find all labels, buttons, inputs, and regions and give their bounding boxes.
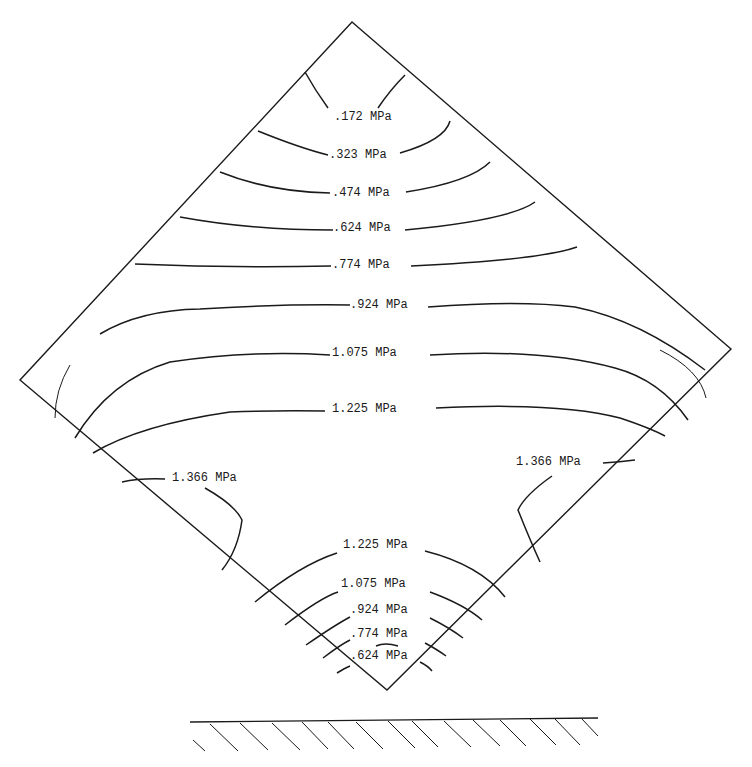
contour-label: .774 MPa <box>350 627 408 641</box>
ground-support <box>190 718 598 751</box>
contour-label: .172 MPa <box>334 110 392 124</box>
contour-label: .624 MPa <box>333 221 391 235</box>
stress-contour-diagram: .172 MPa .323 MPa .474 MPa .624 MPa .774… <box>0 0 752 767</box>
contour-label: 1.225 MPa <box>343 538 408 552</box>
contour-label: .474 MPa <box>332 186 390 200</box>
contour-label: .924 MPa <box>350 298 408 312</box>
contour-label: 1.225 MPa <box>332 402 397 416</box>
contour-label-left: 1.366 MPa <box>172 471 237 485</box>
contour-label: .924 MPa <box>350 603 408 617</box>
lower-contours: 1.225 MPa 1.075 MPa .924 MPa .774 MPa .6… <box>255 538 505 673</box>
contour-label: 1.075 MPa <box>332 346 397 360</box>
contour-label: .624 MPa <box>350 649 408 663</box>
contour-label: .774 MPa <box>332 258 390 272</box>
contour-label: .323 MPa <box>329 148 387 162</box>
contour-label: 1.075 MPa <box>341 577 406 591</box>
upper-contours: .172 MPa .323 MPa .474 MPa .624 MPa .774… <box>55 72 706 453</box>
side-contours: 1.366 MPa 1.366 MPa <box>122 455 635 570</box>
contour-label-right: 1.366 MPa <box>516 455 581 469</box>
